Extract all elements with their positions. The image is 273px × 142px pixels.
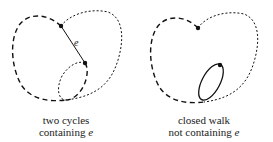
edge-e-label: e [74,37,78,48]
left-outer-dashed-path [13,16,66,101]
right-caption-line2: not containing e [144,126,264,138]
left-caption-line1: two cycles [6,114,126,126]
vertex-mid-right [218,63,222,67]
right-outer-dashed-path [151,18,204,103]
vertex-mid-left [83,61,87,65]
right-caption: closed walk not containing e [144,114,264,138]
left-figure [13,11,122,101]
right-caption-prefix: not containing [169,126,235,138]
right-outer-dotted-path [198,13,258,102]
left-inner-dashed-path [66,63,87,100]
vertex-top-right [196,26,200,30]
right-caption-line1: closed walk [144,114,264,126]
right-figure [151,13,258,104]
left-caption-prefix: containing [39,126,88,138]
left-caption: two cycles containing e [6,114,126,138]
left-outer-dotted-path [61,11,122,100]
right-caption-var: e [235,126,240,138]
left-inner-dotted-path [59,62,85,100]
left-caption-line2: containing e [6,126,126,138]
left-caption-var: e [88,126,93,138]
vertex-top-left [59,24,63,28]
edge-e [61,26,85,63]
